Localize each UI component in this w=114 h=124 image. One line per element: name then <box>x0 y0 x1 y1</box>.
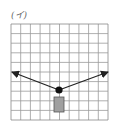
diagram-canvas <box>0 0 114 124</box>
hanging-block <box>54 97 64 112</box>
arrow-left <box>12 72 59 90</box>
arrow-right <box>59 72 108 90</box>
pivot-point <box>55 86 62 93</box>
